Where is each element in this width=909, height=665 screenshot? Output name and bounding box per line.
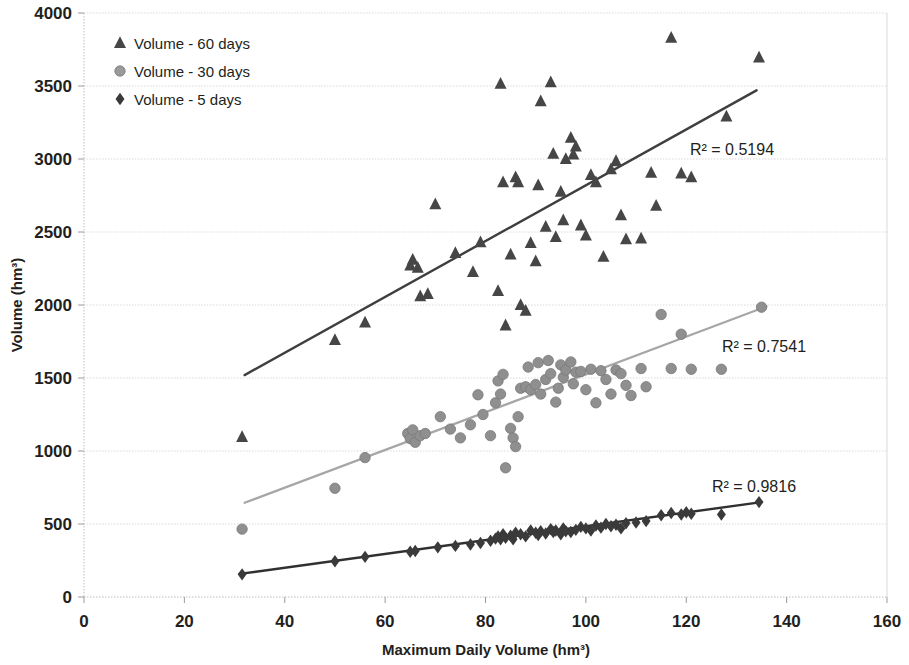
data-point bbox=[621, 380, 631, 390]
data-point bbox=[756, 302, 766, 312]
data-point bbox=[530, 379, 540, 389]
data-point bbox=[576, 366, 586, 376]
x-tick-label: 140 bbox=[772, 612, 800, 631]
y-tick-label: 0 bbox=[63, 588, 72, 607]
data-point bbox=[616, 368, 626, 378]
legend-label: Volume - 30 days bbox=[134, 63, 250, 80]
chart-canvas: 05001000150020002500300035004000 0204060… bbox=[0, 0, 909, 665]
y-axis-tick-labels: 05001000150020002500300035004000 bbox=[34, 4, 72, 607]
data-point bbox=[551, 397, 561, 407]
data-point bbox=[543, 355, 553, 365]
x-tick-label: 20 bbox=[175, 612, 194, 631]
data-point bbox=[591, 398, 601, 408]
y-tick-label: 1000 bbox=[34, 442, 72, 461]
data-point bbox=[495, 389, 505, 399]
y-axis-title: Volume (hm³) bbox=[8, 258, 25, 353]
y-tick-label: 4000 bbox=[34, 4, 72, 23]
data-point bbox=[510, 441, 520, 451]
x-tick-label: 160 bbox=[873, 612, 901, 631]
data-point bbox=[445, 424, 455, 434]
x-tick-label: 100 bbox=[572, 612, 600, 631]
data-point bbox=[455, 433, 465, 443]
x-tick-label: 80 bbox=[476, 612, 495, 631]
data-point bbox=[478, 409, 488, 419]
r2-30-days: R² = 0.7541 bbox=[722, 338, 806, 355]
data-point bbox=[473, 390, 483, 400]
data-point bbox=[601, 374, 611, 384]
y-tick-label: 1500 bbox=[34, 369, 72, 388]
data-point bbox=[553, 383, 563, 393]
data-point bbox=[420, 428, 430, 438]
data-point bbox=[513, 411, 523, 421]
data-point bbox=[546, 368, 556, 378]
x-axis-tick-labels: 020406080100120140160 bbox=[79, 612, 901, 631]
x-tick-label: 0 bbox=[79, 612, 88, 631]
x-tick-label: 120 bbox=[672, 612, 700, 631]
x-axis-title: Maximum Daily Volume (hm³) bbox=[382, 641, 590, 658]
data-point bbox=[566, 357, 576, 367]
data-point bbox=[533, 357, 543, 367]
y-tick-label: 500 bbox=[44, 515, 72, 534]
chart-legend: Volume - 60 daysVolume - 30 daysVolume -… bbox=[114, 35, 250, 108]
x-tick-label: 40 bbox=[275, 612, 294, 631]
data-point bbox=[666, 363, 676, 373]
data-point bbox=[360, 452, 370, 462]
data-point bbox=[500, 463, 510, 473]
data-point bbox=[676, 329, 686, 339]
data-point bbox=[568, 379, 578, 389]
data-point bbox=[626, 390, 636, 400]
x-tick-label: 60 bbox=[376, 612, 395, 631]
data-point bbox=[606, 389, 616, 399]
data-point bbox=[656, 309, 666, 319]
data-point bbox=[237, 524, 247, 534]
data-point bbox=[641, 382, 651, 392]
legend-label: Volume - 60 days bbox=[134, 35, 250, 52]
data-point bbox=[586, 364, 596, 374]
legend-label: Volume - 5 days bbox=[134, 91, 242, 108]
r2-5-days: R² = 0.9816 bbox=[712, 478, 796, 495]
data-point bbox=[330, 483, 340, 493]
data-point bbox=[523, 362, 533, 372]
data-point bbox=[686, 364, 696, 374]
r2-60-days: R² = 0.5194 bbox=[690, 141, 774, 158]
scatter-chart: 05001000150020002500300035004000 0204060… bbox=[0, 0, 909, 665]
y-tick-label: 2500 bbox=[34, 223, 72, 242]
y-tick-label: 3000 bbox=[34, 150, 72, 169]
y-tick-label: 2000 bbox=[34, 296, 72, 315]
data-point bbox=[716, 364, 726, 374]
data-point bbox=[435, 411, 445, 421]
data-point bbox=[505, 423, 515, 433]
y-tick-label: 3500 bbox=[34, 77, 72, 96]
data-point bbox=[465, 420, 475, 430]
legend-circle-marker bbox=[115, 66, 125, 76]
data-point bbox=[485, 430, 495, 440]
data-point bbox=[536, 389, 546, 399]
data-point bbox=[498, 369, 508, 379]
data-point bbox=[636, 363, 646, 373]
data-point bbox=[581, 384, 591, 394]
